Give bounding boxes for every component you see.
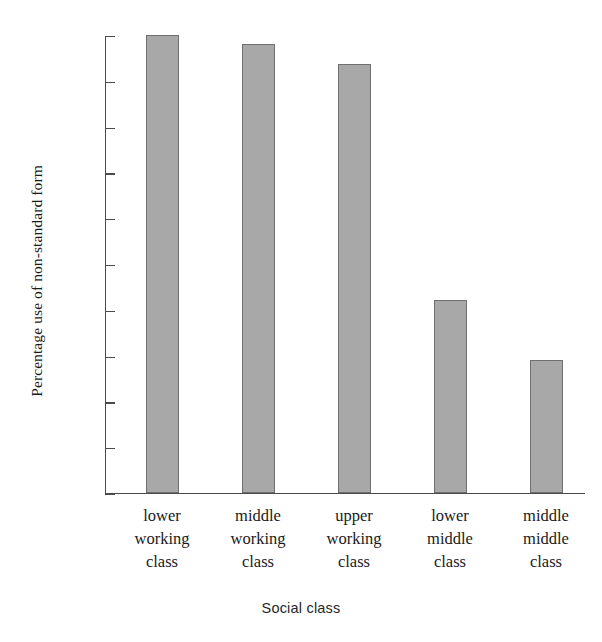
x-category-label: middleworkingclass bbox=[206, 504, 310, 573]
y-tick-mark bbox=[105, 357, 115, 358]
y-tick-mark bbox=[105, 36, 115, 37]
x-category-label-line: working bbox=[206, 527, 310, 550]
x-category-label-line: class bbox=[302, 550, 406, 573]
x-category-label-line: middle bbox=[494, 527, 598, 550]
x-category-label: middlemiddleclass bbox=[494, 504, 598, 573]
x-axis-title: Social class bbox=[0, 600, 602, 616]
x-category-label-line: class bbox=[494, 550, 598, 573]
x-category-label-line: middle bbox=[398, 527, 502, 550]
y-tick-mark bbox=[105, 402, 115, 403]
y-tick-mark bbox=[105, 494, 115, 495]
bar bbox=[434, 300, 467, 492]
x-category-label-line: middle bbox=[494, 504, 598, 527]
x-category-label-line: working bbox=[302, 527, 406, 550]
bar bbox=[146, 35, 179, 493]
x-axis-line bbox=[105, 493, 585, 494]
x-category-label-line: working bbox=[110, 527, 214, 550]
plot-area: 1009080706050403020100 bbox=[105, 36, 585, 494]
x-category-label-line: class bbox=[206, 550, 310, 573]
y-tick-mark bbox=[105, 82, 115, 83]
x-category-label-line: lower bbox=[110, 504, 214, 527]
x-category-label: lowermiddleclass bbox=[398, 504, 502, 573]
y-tick-mark bbox=[105, 448, 115, 449]
y-tick-mark bbox=[105, 311, 115, 312]
x-category-label-line: lower bbox=[398, 504, 502, 527]
y-axis-title: Percentage use of non-standard form bbox=[24, 51, 50, 511]
x-category-label-line: middle bbox=[206, 504, 310, 527]
y-tick-mark bbox=[105, 265, 115, 266]
bar bbox=[338, 64, 371, 492]
y-tick-mark bbox=[105, 219, 115, 220]
x-category-label-line: class bbox=[398, 550, 502, 573]
y-tick-mark bbox=[105, 173, 115, 174]
x-category-label-line: upper bbox=[302, 504, 406, 527]
bar-chart: Percentage use of non-standard form 1009… bbox=[0, 0, 602, 642]
x-category-label-line: class bbox=[110, 550, 214, 573]
x-category-label: lowerworkingclass bbox=[110, 504, 214, 573]
bar bbox=[242, 44, 275, 493]
x-category-label: upperworkingclass bbox=[302, 504, 406, 573]
bar bbox=[530, 360, 563, 493]
y-tick-mark bbox=[105, 128, 115, 129]
